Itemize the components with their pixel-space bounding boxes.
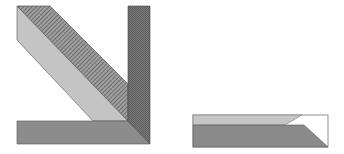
lower-dark-band (193, 125, 328, 147)
right-figure (193, 115, 328, 147)
diagonal-hatched-strip (17, 6, 128, 121)
left-figure (17, 6, 150, 144)
diagram-canvas (0, 0, 344, 154)
horizontal-bottom-bar (17, 121, 150, 144)
upper-light-band (193, 115, 302, 125)
vertical-dark-bar (128, 6, 150, 144)
